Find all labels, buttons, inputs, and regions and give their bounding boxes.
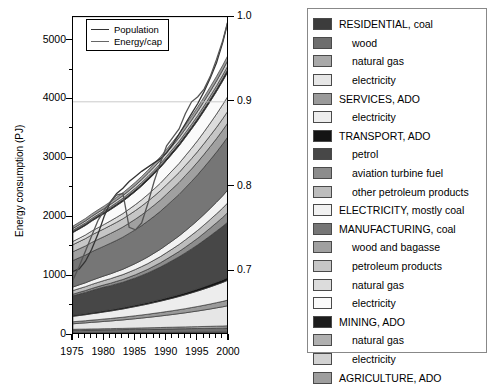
secondary-tick-label: 0.7 <box>237 263 267 275</box>
secondary-tick-label: 0.9 <box>237 94 267 106</box>
x-tick-minor <box>78 334 79 338</box>
legend-item-label: MINING, ADO <box>339 316 405 328</box>
x-tick-minor <box>84 334 85 338</box>
legend-item: wood and bagasse <box>313 238 481 257</box>
x-tick-minor <box>215 334 216 338</box>
plot-area <box>72 16 228 334</box>
y-tick-label: 2000 <box>28 209 66 221</box>
x-tick-minor <box>221 334 222 338</box>
legend-color-swatch <box>313 353 332 365</box>
legend-color-swatch <box>313 18 332 30</box>
legend-item: TRANSPORT, ADO <box>313 127 481 146</box>
legend-color-swatch <box>313 260 332 272</box>
legend-item-label: wood <box>339 37 377 49</box>
legend-item-label: TRANSPORT, ADO <box>339 130 430 142</box>
y-tick-minor <box>69 304 73 305</box>
x-tick-minor <box>121 334 122 338</box>
legend-item: RESIDENTIAL, coal <box>313 15 481 34</box>
y-tick-label: 3000 <box>28 150 66 162</box>
y-tick-label: 4000 <box>28 91 66 103</box>
legend-item-label: MANUFACTURING, coal <box>339 223 456 235</box>
series-legend-inner: PopulationEnergy/cap <box>86 19 169 51</box>
legend-color-swatch <box>313 93 332 105</box>
legend-color-swatch <box>313 148 332 160</box>
inner-legend-item: Energy/cap <box>91 35 162 47</box>
y-tick-minor <box>69 127 73 128</box>
legend-color-swatch <box>313 130 332 142</box>
y-tick-minor <box>69 69 73 70</box>
x-tick-label: 2000 <box>206 345 250 357</box>
legend-item: aviation turbine fuel <box>313 164 481 183</box>
y-tick-label: 5000 <box>28 33 66 45</box>
legend-item: ELECTRICITY, mostly coal <box>313 201 481 220</box>
legend-item: AGRICULTURE, ADO <box>313 368 481 387</box>
legend-item-label: wood and bagasse <box>339 241 440 253</box>
legend-item-label: natural gas <box>339 55 404 67</box>
secondary-tick-label: 1.0 <box>237 9 267 21</box>
legend-item-label: aviation turbine fuel <box>339 167 443 179</box>
x-tick-minor <box>140 334 141 338</box>
inner-legend-item: Population <box>91 23 162 35</box>
legend-color-swatch <box>313 74 332 86</box>
legend-color-swatch <box>313 186 332 198</box>
legend-item: MANUFACTURING, coal <box>313 220 481 239</box>
legend-panel: RESIDENTIAL, coalwoodnatural gaselectric… <box>307 8 487 353</box>
x-tick-minor <box>159 334 160 338</box>
legend-item-label: electricity <box>339 74 396 86</box>
legend-color-swatch <box>313 334 332 346</box>
x-tick-minor <box>153 334 154 338</box>
y-tick-minor <box>69 245 73 246</box>
legend-color-swatch <box>313 297 332 309</box>
secondary-tick-major <box>228 185 234 186</box>
legend-color-swatch <box>313 37 332 49</box>
legend-item: natural gas <box>313 331 481 350</box>
legend-line-swatch <box>91 41 109 42</box>
legend-item-label: petrol <box>339 148 378 160</box>
x-tick-minor <box>128 334 129 338</box>
y-tick-major <box>66 39 72 40</box>
legend-item: MINING, ADO <box>313 313 481 332</box>
legend-item-label: natural gas <box>339 334 404 346</box>
secondary-tick-major <box>228 16 234 17</box>
legend-item-label: electricity <box>339 297 396 309</box>
x-tick-major <box>134 334 135 340</box>
x-tick-minor <box>96 334 97 338</box>
x-tick-minor <box>90 334 91 338</box>
x-tick-minor <box>115 334 116 338</box>
x-tick-minor <box>203 334 204 338</box>
y-tick-major <box>66 275 72 276</box>
legend-item-label: RESIDENTIAL, coal <box>339 18 433 30</box>
x-tick-major <box>227 334 228 340</box>
x-tick-minor <box>178 334 179 338</box>
legend-item-label: other petroleum products <box>339 186 469 198</box>
x-tick-major <box>165 334 166 340</box>
legend-item-label: AGRICULTURE, ADO <box>339 372 442 384</box>
legend-item: petrol <box>313 145 481 164</box>
stacked-area-svg <box>73 17 228 334</box>
x-tick-minor <box>171 334 172 338</box>
inner-legend-label: Energy/cap <box>114 36 162 47</box>
x-tick-major <box>71 334 72 340</box>
x-tick-minor <box>109 334 110 338</box>
legend-item-label: natural gas <box>339 279 404 291</box>
legend-item: electricity <box>313 71 481 90</box>
legend-color-swatch <box>313 55 332 67</box>
legend-color-swatch <box>313 279 332 291</box>
legend-color-swatch <box>313 372 332 384</box>
x-tick-minor <box>146 334 147 338</box>
y-tick-label: 1000 <box>28 268 66 280</box>
inner-legend-label: Population <box>114 24 159 35</box>
secondary-tick-major <box>228 100 234 101</box>
y-tick-major <box>66 157 72 158</box>
legend-item-label: petroleum products <box>339 260 442 272</box>
legend-item: other petroleum products <box>313 182 481 201</box>
legend-item: SERVICES, ADO <box>313 89 481 108</box>
x-tick-major <box>196 334 197 340</box>
x-tick-minor <box>209 334 210 338</box>
y-tick-label: 0 <box>28 327 66 339</box>
legend-item: petroleum products <box>313 257 481 276</box>
legend-line-swatch <box>91 29 109 30</box>
legend-item-label: electricity <box>339 353 396 365</box>
y-tick-major <box>66 98 72 99</box>
